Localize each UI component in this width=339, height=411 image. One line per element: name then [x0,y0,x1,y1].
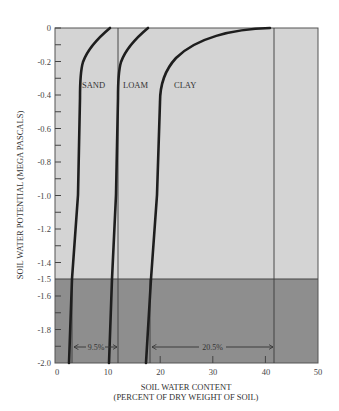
y-tick-neg0-8: -0.8 [38,157,51,167]
y-tick-neg1-5: -1.5 [38,274,51,284]
y-tick-neg1-8: -1.8 [38,325,51,335]
x-axis-subtitle: (PERCENT OF DRY WEIGHT OF SOIL) [114,392,259,402]
x-tick-40: 40 [262,367,271,377]
y-tick-neg1-4: -1.4 [38,258,52,268]
clay-label: CLAY [174,80,196,90]
x-tick-30: 30 [209,367,218,377]
x-tick-10: 10 [104,367,113,377]
y-tick-neg0-2: -0.2 [38,57,51,67]
x-tick-0: 0 [55,367,59,377]
y-tick-0: 0 [47,23,51,33]
arrow-label-9-5: 9.5% [88,343,105,352]
arrow-label-20-5: 20.5% [202,343,223,352]
x-tick-50: 50 [314,367,323,377]
x-tick-20: 20 [156,367,165,377]
y-axis-tick-labels: 0 -0.2 -0.4 -0.6 -0.8 -1.0 -1.2 -1.4 -1.… [38,23,52,368]
sand-label: SAND [82,80,105,90]
plot-area-upper [55,28,318,279]
y-tick-neg0-4: -0.4 [38,90,52,100]
y-tick-neg2-0: -2.0 [38,358,51,368]
y-tick-neg1-2: -1.2 [38,224,51,234]
y-tick-neg1-0: -1.0 [38,191,51,201]
x-axis-title: SOIL WATER CONTENT [141,382,232,392]
loam-label: LOAM [123,80,148,90]
soil-water-chart: 0 -0.2 -0.4 -0.6 -0.8 -1.0 -1.2 -1.4 -1.… [0,0,339,411]
y-tick-neg1-6: -1.6 [38,291,51,301]
y-axis-title: SOIL WATER POTENTIAL (MEGA PASCALS) [15,111,25,280]
y-tick-neg0-6: -0.6 [38,124,51,134]
x-axis-tick-labels: 0 10 20 30 40 50 [55,367,322,377]
